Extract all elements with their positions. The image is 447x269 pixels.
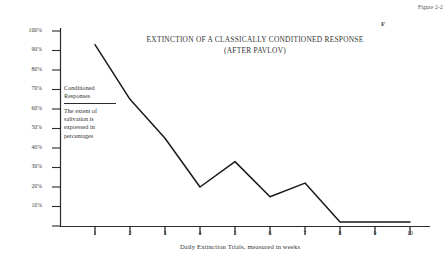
y-axis-ticks — [52, 31, 61, 226]
x-axis-ticks — [95, 227, 410, 236]
figure-root: Figure 2-2 F EXTINCTION OF A CLASSICALLY… — [0, 0, 447, 269]
chart-plot-area — [0, 0, 447, 269]
extinction-curve — [95, 45, 410, 223]
